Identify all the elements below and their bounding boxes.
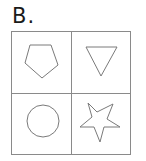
inverted-triangle-icon [86, 47, 117, 76]
circle-icon [27, 105, 59, 137]
star-icon [80, 103, 120, 142]
grid-lines [12, 32, 131, 155]
shape-grid [0, 0, 146, 161]
pentagon-icon [25, 45, 58, 78]
